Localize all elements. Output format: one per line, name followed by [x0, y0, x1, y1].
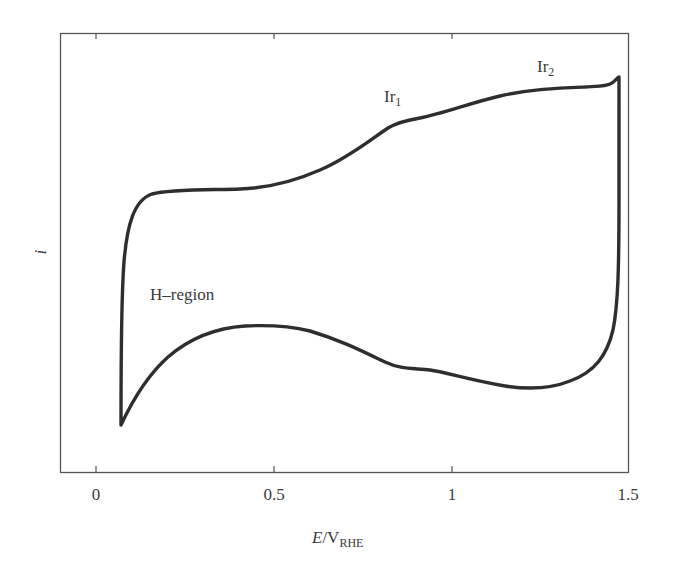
annotation-ir2-main: Ir [537, 57, 549, 76]
plot-frame [61, 34, 629, 473]
x-axis-title-sep: /V [322, 528, 340, 547]
cv-curve [121, 77, 619, 425]
x-tick-label-1: 1 [448, 485, 457, 504]
x-axis-title: E/VRHE [311, 528, 363, 550]
y-axis-title: i [31, 249, 50, 254]
x-axis-title-main: E [311, 528, 323, 547]
annotation-ir1-main: Ir [384, 87, 396, 106]
x-ticks-bottom [96, 466, 452, 472]
annotation-ir1-sub: 1 [395, 95, 401, 109]
annotation-ir2-sub: 2 [548, 65, 554, 79]
annotation-ir1: Ir1 [384, 87, 401, 109]
annotation-ir2: Ir2 [537, 57, 554, 79]
cv-chart: 0 0.5 1 1.5 E/VRHE i H–region Ir1 Ir2 [0, 0, 676, 579]
x-tick-label-0: 0 [92, 485, 101, 504]
annotation-h-region: H–region [150, 285, 215, 304]
x-tick-label-1.5: 1.5 [617, 485, 638, 504]
x-axis-title-sub: RHE [339, 536, 363, 550]
x-tick-label-0.5: 0.5 [263, 485, 284, 504]
